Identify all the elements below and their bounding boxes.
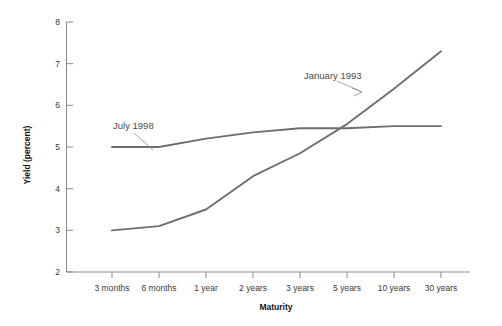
x-tick-label-2-years: 2 years: [239, 283, 267, 293]
x-tick-label-5-years: 5 years: [333, 283, 361, 293]
series-annotation-january-1993: January 1993: [304, 70, 362, 81]
y-axis-ticks: [67, 22, 74, 272]
x-tick-label-3-years: 3 years: [286, 283, 314, 293]
leader-arrow-january-1993-b: [354, 92, 362, 96]
x-axis-ticks: [112, 272, 441, 278]
chart-canvas: 2 3 4 5 6 7 8 3 months 6 months 1 year 2…: [0, 0, 502, 326]
series-line-january-1993: [112, 51, 441, 230]
y-tick-label-6: 6: [55, 100, 60, 110]
yield-curve-chart: 2 3 4 5 6 7 8 3 months 6 months 1 year 2…: [0, 0, 502, 326]
x-tick-label-1-year: 1 year: [194, 283, 218, 293]
leader-arrow-january-1993-a: [352, 88, 362, 92]
x-axis-title: Maturity: [259, 302, 292, 312]
x-tick-label-6-months: 6 months: [142, 283, 177, 293]
x-tick-label-10-years: 10 years: [378, 283, 411, 293]
x-tick-label-30-years: 30 years: [425, 283, 458, 293]
y-tick-label-2: 2: [55, 267, 60, 277]
x-tick-label-3-months: 3 months: [95, 283, 130, 293]
series-annotation-july-1998: July 1998: [113, 120, 154, 131]
y-tick-label-8: 8: [55, 17, 60, 27]
y-tick-label-5: 5: [55, 142, 60, 152]
y-tick-label-7: 7: [55, 59, 60, 69]
y-axis-title: Yield (percent): [22, 125, 32, 184]
y-tick-label-4: 4: [55, 184, 60, 194]
y-tick-label-3: 3: [55, 225, 60, 235]
series-line-july-1998: [112, 126, 441, 147]
